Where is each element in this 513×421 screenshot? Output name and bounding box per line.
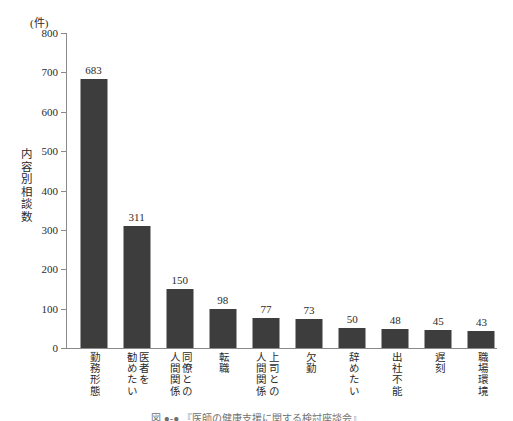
y-tick-label: 500	[42, 145, 59, 157]
y-tick-label: 400	[42, 185, 59, 197]
bar[interactable]	[80, 79, 107, 348]
bar-group[interactable]: 98転職	[201, 33, 244, 348]
bar[interactable]	[252, 318, 279, 348]
y-tick-label: 100	[42, 303, 59, 315]
y-tick-mark	[61, 348, 66, 349]
x-category-label: 辞めたい	[346, 352, 358, 408]
bar-value-label: 150	[171, 274, 188, 286]
bar-group[interactable]: 43職場環境	[460, 33, 503, 348]
y-tick-label: 300	[42, 224, 59, 236]
bar-group[interactable]: 50辞めたい	[331, 33, 374, 348]
bar[interactable]	[382, 329, 409, 348]
y-tick-label: 200	[42, 263, 59, 275]
y-tick-mark	[61, 33, 66, 34]
x-category-label: 医者を 勧めたい	[124, 352, 148, 408]
bar-value-label: 98	[217, 294, 228, 306]
bar[interactable]	[296, 319, 323, 348]
x-category-label: 遅刻	[432, 352, 444, 408]
bar-value-label: 73	[304, 304, 315, 316]
y-axis-title: 内容別相談数	[17, 148, 32, 223]
bar-value-label: 50	[347, 313, 358, 325]
bar-group[interactable]: 73欠勤	[288, 33, 331, 348]
x-category-label: 転職	[217, 352, 229, 408]
bar[interactable]	[425, 330, 452, 348]
bar[interactable]	[123, 226, 150, 348]
bar-value-label: 43	[476, 316, 487, 328]
x-category-label: 上司との 人間関係	[254, 352, 278, 408]
y-tick-label: 800	[42, 27, 59, 39]
y-tick-mark	[61, 269, 66, 270]
y-tick-mark	[61, 309, 66, 310]
y-axis-line	[66, 33, 67, 348]
bar-value-label: 48	[390, 314, 401, 326]
bar[interactable]	[468, 331, 495, 348]
bar-value-label: 45	[433, 315, 444, 327]
x-category-label: 勤務形態	[87, 352, 99, 408]
x-category-label: 職場環境	[475, 352, 487, 408]
y-tick-mark	[61, 191, 66, 192]
bar-value-label: 311	[129, 211, 145, 223]
bar-group[interactable]: 150同僚との 人間関係	[158, 33, 201, 348]
y-tick-label: 0	[53, 342, 59, 354]
bar-group[interactable]: 311医者を 勧めたい	[115, 33, 158, 348]
y-tick-mark	[61, 72, 66, 73]
y-tick-label: 600	[42, 106, 59, 118]
y-tick-mark	[61, 112, 66, 113]
y-tick-mark	[61, 230, 66, 231]
bar-value-label: 683	[85, 64, 102, 76]
bar-chart: (件) 内容別相談数 8007006005004003002001000 683…	[0, 0, 513, 421]
bar-group[interactable]: 683勤務形態	[72, 33, 115, 348]
bar[interactable]	[209, 309, 236, 348]
bar-value-label: 77	[260, 303, 271, 315]
x-category-label: 欠勤	[303, 352, 315, 408]
plot-area: 8007006005004003002001000 683勤務形態311医者を …	[66, 33, 497, 348]
x-axis-line	[66, 348, 497, 349]
x-category-label: 同僚との 人間関係	[168, 352, 192, 408]
bar[interactable]	[166, 289, 193, 348]
figure-caption: 図 ●-● 『医師の健康支援に関する検討座談会』	[0, 410, 513, 421]
x-category-label: 出社不能	[389, 352, 401, 408]
bar[interactable]	[339, 328, 366, 348]
y-tick-label: 700	[42, 66, 59, 78]
bar-group[interactable]: 48出社不能	[374, 33, 417, 348]
bar-group[interactable]: 45遅刻	[417, 33, 460, 348]
bar-group[interactable]: 77上司との 人間関係	[244, 33, 287, 348]
y-tick-mark	[61, 151, 66, 152]
